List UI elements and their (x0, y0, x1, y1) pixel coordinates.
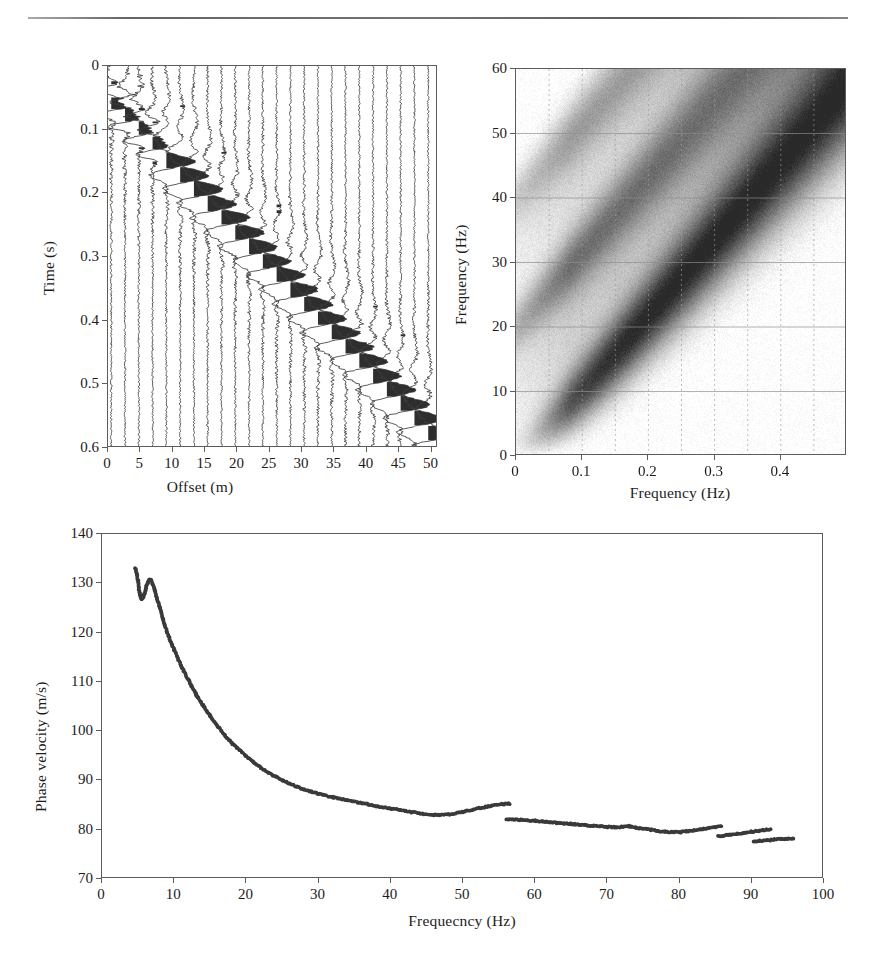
x-tickmark (679, 878, 680, 883)
wiggle-positive-fill (373, 306, 378, 308)
y-tickmark (96, 632, 101, 633)
x-tickmark (534, 878, 535, 883)
x-tickmark (390, 878, 391, 883)
x-tick-label: 10 (166, 886, 181, 903)
x-tickmark (366, 447, 367, 452)
dispersion-segment (133, 566, 511, 817)
x-tick-label: 50 (423, 455, 438, 472)
panel-dispersion-curve: Phase velocity (m/s) Frequecncy (Hz) 010… (0, 500, 875, 967)
x-tickmark (606, 878, 607, 883)
x-tick-label: 10 (164, 455, 179, 472)
wiggle-positive-fill (221, 152, 226, 154)
fk-spectrum-ylabel: Frequency (Hz) (452, 225, 470, 326)
x-tick-label: 15 (197, 455, 212, 472)
x-tickmark (462, 878, 463, 883)
x-tick-label: 0 (103, 455, 111, 472)
x-tickmark (204, 447, 205, 452)
y-tickmark (510, 197, 515, 198)
wiggle-trace (343, 66, 388, 447)
y-tick-label: 0.3 (41, 248, 99, 265)
dispersion-point (508, 802, 512, 806)
dispersion-point (792, 837, 796, 841)
wiggle-trace (330, 66, 374, 447)
x-tickmark (173, 878, 174, 883)
x-tick-label: 50 (455, 886, 470, 903)
y-tickmark (510, 326, 515, 327)
y-tickmark (96, 730, 101, 731)
y-tick-label: 10 (449, 382, 507, 399)
wiggle-positive-fill (208, 196, 237, 211)
x-tickmark (172, 447, 173, 452)
x-tick-label: 100 (812, 886, 835, 903)
y-tick-label: 40 (449, 189, 507, 206)
y-tick-label: 110 (35, 672, 93, 689)
wiggle-trace (217, 66, 264, 447)
dispersion-xlabel: Frequecncy (Hz) (408, 912, 516, 930)
x-tick-label: 25 (261, 455, 276, 472)
y-tick-label: 20 (449, 318, 507, 335)
y-tickmark (102, 447, 107, 448)
dispersion-point (769, 827, 773, 831)
y-tickmark (96, 878, 101, 879)
x-tickmark (333, 447, 334, 452)
x-tick-label: 30 (294, 455, 309, 472)
x-tick-label: 60 (527, 886, 542, 903)
dispersion-segment (752, 837, 795, 844)
figure-root: Time (s) Offset (m) 05101520253035404550… (0, 0, 875, 967)
y-tick-label: 60 (449, 60, 507, 77)
y-tick-label: 130 (35, 574, 93, 591)
y-tick-label: 90 (35, 771, 93, 788)
x-tickmark (581, 455, 582, 460)
y-tick-label: 50 (449, 124, 507, 141)
wiggle-trace (300, 66, 347, 447)
y-tick-label: 30 (449, 253, 507, 270)
y-tick-label: 120 (35, 623, 93, 640)
y-tickmark (510, 133, 515, 134)
wiggle-trace (108, 66, 140, 447)
x-tick-label: 0.4 (770, 463, 789, 480)
x-tick-label: 20 (229, 455, 244, 472)
wiggle-positive-fill (428, 426, 437, 440)
x-tickmark (245, 878, 246, 883)
x-tickmark (780, 455, 781, 460)
x-tickmark (431, 447, 432, 452)
dispersion-ylabel: Phase velocity (m/s) (32, 681, 50, 812)
wiggle-trace (122, 66, 153, 447)
wiggle-positive-fill (139, 121, 154, 134)
x-tickmark (107, 447, 108, 452)
y-tickmark (96, 829, 101, 830)
x-tick-label: 0.1 (572, 463, 591, 480)
y-tick-label: 0.2 (41, 184, 99, 201)
wiggle-positive-fill (277, 210, 282, 213)
x-tickmark (647, 455, 648, 460)
dispersion-plot-area (101, 533, 823, 878)
x-tick-label: 45 (391, 455, 406, 472)
x-tickmark (269, 447, 270, 452)
y-tick-label: 100 (35, 722, 93, 739)
x-tick-label: 90 (743, 886, 758, 903)
y-tick-label: 0 (41, 57, 99, 74)
y-tick-label: 0 (449, 447, 507, 464)
x-tick-label: 0 (97, 886, 105, 903)
x-tickmark (515, 455, 516, 460)
wiggle-positive-fill (180, 105, 185, 107)
panel-fk-spectrum: Frequency (Hz) Frequency (Hz) 00.10.20.3… (440, 0, 875, 500)
x-tick-label: 0.2 (638, 463, 657, 480)
x-tickmark (301, 447, 302, 452)
y-tickmark (96, 681, 101, 682)
y-tickmark (102, 192, 107, 193)
y-tickmark (102, 65, 107, 66)
y-tick-label: 0.4 (41, 311, 99, 328)
x-tick-label: 40 (382, 886, 397, 903)
x-tickmark (236, 447, 237, 452)
wiggle-positive-fill (277, 204, 282, 207)
wiggle-positive-fill (277, 267, 306, 282)
x-tickmark (751, 878, 752, 883)
y-tickmark (102, 256, 107, 257)
y-tickmark (510, 68, 515, 69)
y-tickmark (102, 129, 107, 130)
x-tickmark (823, 878, 824, 883)
shot-gather-plot-area (107, 65, 437, 447)
x-tick-label: 30 (310, 886, 325, 903)
y-tickmark (510, 455, 515, 456)
